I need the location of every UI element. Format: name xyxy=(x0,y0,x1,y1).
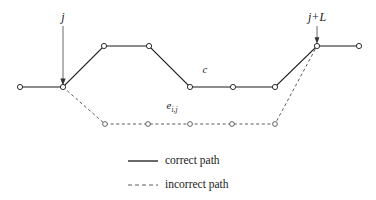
node-marker-jl xyxy=(314,43,319,48)
path-diagram-figure: j j+L c ei,j correct path incorrect path xyxy=(0,0,376,200)
label-error-path-e: ei,j xyxy=(167,100,178,114)
j-annotation-arrow xyxy=(60,26,65,86)
correct-path-line xyxy=(20,46,359,87)
node-marker xyxy=(187,84,192,89)
node-marker xyxy=(273,122,278,127)
node-marker xyxy=(146,122,151,127)
correct-path-nodes xyxy=(17,43,361,89)
node-marker xyxy=(146,43,151,48)
node-marker xyxy=(101,43,106,48)
node-marker xyxy=(272,84,277,89)
legend-label-correct-path: correct path xyxy=(165,155,220,167)
node-marker xyxy=(103,122,108,127)
label-error-subscript: i,j xyxy=(171,105,177,114)
label-j: j xyxy=(61,11,64,23)
legend-label-incorrect-path: incorrect path xyxy=(165,179,229,191)
jl-annotation-arrow xyxy=(315,26,320,44)
node-marker xyxy=(356,43,361,48)
node-marker xyxy=(188,122,193,127)
label-j-plus-l: j+L xyxy=(308,11,326,23)
node-marker xyxy=(17,84,22,89)
node-marker xyxy=(230,84,235,89)
diagram-canvas xyxy=(0,0,376,200)
node-marker xyxy=(230,122,235,127)
label-correct-path-c: c xyxy=(203,64,208,75)
